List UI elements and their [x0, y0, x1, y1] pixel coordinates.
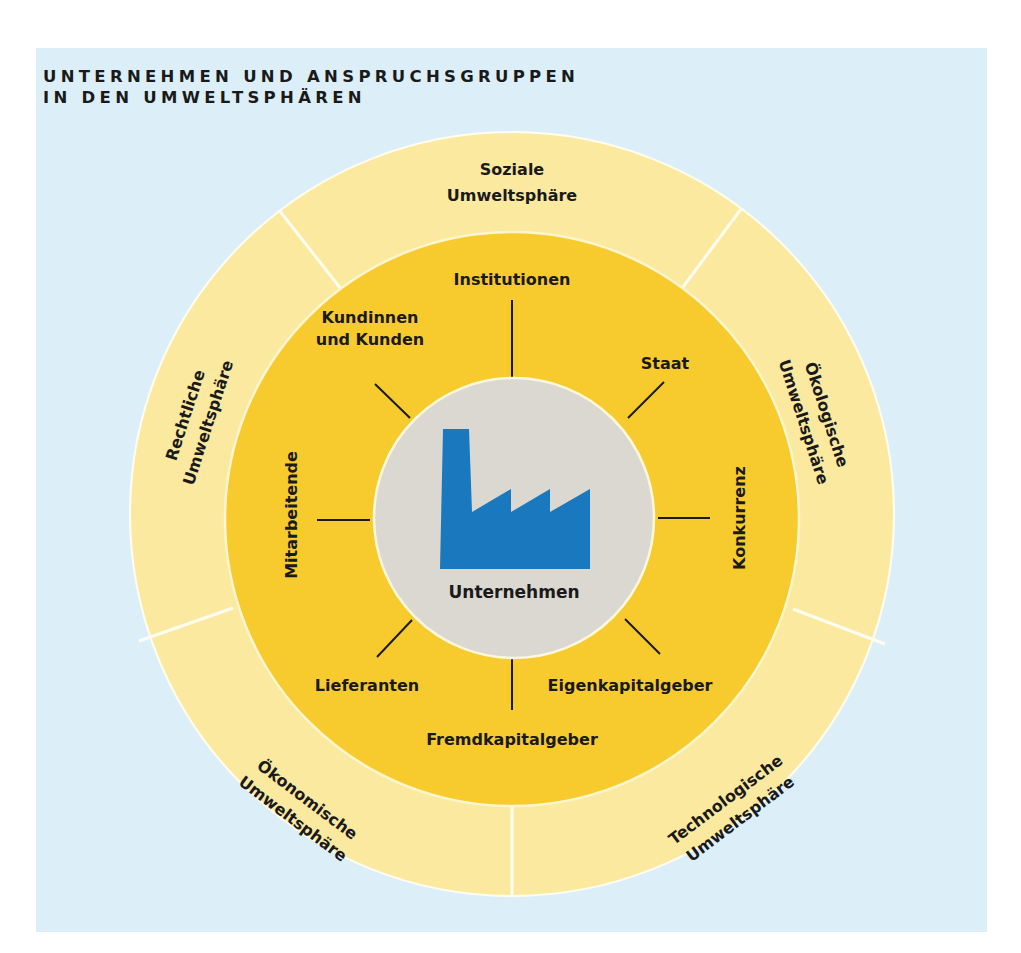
stakeholder-kunden-line2: und Kunden	[316, 330, 424, 349]
stakeholder-staat: Staat	[641, 354, 690, 373]
stakeholder-diagram: Unternehmen Institutionen Kundinnen und …	[0, 0, 1021, 953]
sphere-soziale-line1: Soziale	[480, 160, 545, 179]
stakeholder-fremdkapitalgeber: Fremdkapitalgeber	[426, 730, 598, 749]
company-label: Unternehmen	[448, 582, 579, 602]
stakeholder-eigenkapitalgeber: Eigenkapitalgeber	[548, 676, 713, 695]
stakeholder-mitarbeitende: Mitarbeitende	[282, 451, 301, 579]
stakeholder-kunden-line1: Kundinnen	[322, 308, 419, 327]
stakeholder-institutionen: Institutionen	[454, 270, 571, 289]
stakeholder-konkurrenz: Konkurrenz	[730, 466, 749, 570]
sphere-soziale-line2: Umweltsphäre	[447, 186, 577, 205]
stakeholder-lieferanten: Lieferanten	[315, 676, 419, 695]
